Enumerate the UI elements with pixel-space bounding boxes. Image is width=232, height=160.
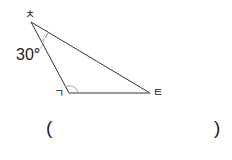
side-chi-tieut [31, 22, 150, 93]
angle-label-30: 30° [16, 47, 40, 63]
vertex-label-giyeok: ㄱ [54, 88, 64, 99]
vertex-label-chi: ㅊ [25, 9, 35, 20]
answer-open-paren: ( [46, 118, 52, 137]
angle-arc-chi [41, 33, 48, 42]
answer-blank[interactable] [60, 118, 210, 138]
vertex-label-tieut: ㅌ [153, 87, 163, 98]
answer-close-paren: ) [214, 118, 220, 137]
